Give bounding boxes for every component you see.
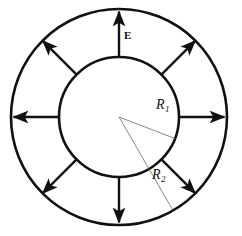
inner-radius-line (119, 117, 175, 139)
inner-radius-subscript: 1 (165, 104, 170, 114)
outer-radius-subscript: 2 (161, 174, 166, 184)
annulus-figure: E R1 R2 (0, 0, 242, 236)
spoke-arrow-lower-right (161, 159, 195, 193)
inner-radius-label-r1: R1 (156, 98, 169, 114)
spoke-arrow-upper-left (43, 41, 77, 75)
spoke-arrow-lower-left (43, 159, 77, 193)
thickness-label-e: E (124, 30, 131, 41)
annulus-diagram (0, 0, 242, 236)
outer-radius-symbol: R (152, 167, 161, 182)
outer-radius-label-r2: R2 (152, 168, 165, 184)
spoke-arrow-upper-right (161, 41, 195, 75)
inner-radius-symbol: R (156, 97, 165, 112)
